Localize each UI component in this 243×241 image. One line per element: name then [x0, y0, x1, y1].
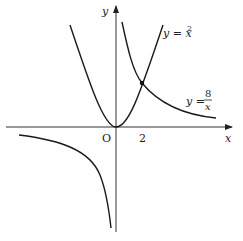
hyperbola-denominator: x: [205, 101, 211, 112]
intersection-point: [140, 81, 144, 85]
hyperbola-equation: y =: [185, 95, 205, 108]
x-axis-label: x: [225, 132, 232, 145]
parabola-exponent: 2: [187, 24, 192, 33]
function-graph: y x O 2 y = x 2 y = 8 x: [0, 0, 243, 241]
y-axis-label: y: [101, 5, 109, 18]
tick-label-2: 2: [139, 132, 146, 145]
hyperbola-left-branch: [19, 135, 111, 228]
origin-label: O: [102, 132, 111, 145]
hyperbola-numerator: 8: [205, 88, 211, 99]
